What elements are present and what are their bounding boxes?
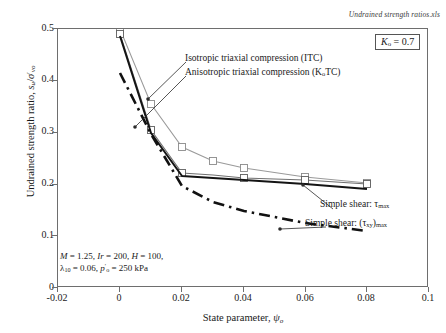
- parameter-text-block: M = 1.25, Ir = 200, H = 100, λ10 = 0.06,…: [60, 250, 163, 275]
- file-caption: Undrained strength ratios.xls: [349, 10, 440, 19]
- y-axis-title: Undrained strength ratio, su/σ′vo: [25, 16, 38, 246]
- y-tick-label-0: 0: [24, 281, 54, 292]
- x-tick-label-0.1: 0.1: [398, 292, 446, 303]
- parameter-line-2: λ10 = 0.06, p′o = 250 kPa: [60, 262, 163, 275]
- x-tick-label-0: 0: [89, 292, 149, 303]
- annotation-k0tc: Anisotropic triaxial compression (KoTC): [185, 67, 340, 78]
- x-axis-title: State parameter, ψo: [103, 312, 383, 325]
- chart-figure: Undrained strength ratios.xls 0.5 0.4 0.…: [0, 0, 446, 333]
- x-tick-label-0.06: 0.06: [275, 292, 335, 303]
- annotation-itc: Isotropic triaxial compression (ITC): [185, 53, 322, 64]
- x-tick-label-0.08: 0.08: [336, 292, 396, 303]
- k0-annotation-box: Ko = 0.7: [375, 34, 420, 50]
- annotation-simple-shear-tau-max: Simple shear: τmax: [320, 199, 389, 210]
- x-tick-label-0.04: 0.04: [213, 292, 273, 303]
- x-tick-label-0.02: 0.02: [151, 292, 211, 303]
- x-tick-label--0.02: -0.02: [27, 292, 87, 303]
- annotation-simple-shear-tau-xy-max: Simple shear: (τxy)max: [305, 218, 387, 229]
- parameter-line-1: M = 1.25, Ir = 200, H = 100,: [60, 250, 163, 262]
